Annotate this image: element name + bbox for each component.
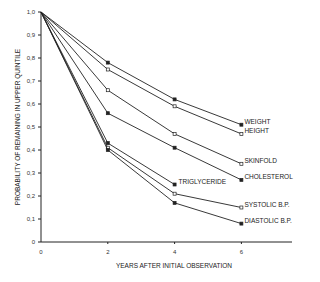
y-tick-label: 0,3 [27,170,36,176]
x-tick-label: 0 [39,249,43,255]
line-diastolic-b-p [41,12,241,224]
y-tick-label: 0,5 [27,124,36,130]
marker-skinfold [173,132,176,135]
label-triglyceride: TRIGLYCERIDE [179,178,227,185]
y-tick-label: 0,6 [27,101,36,107]
y-tick-label: 0 [32,239,36,245]
y-tick-label: 0,4 [27,147,36,153]
series-labels: WEIGHTHEIGHTSKINFOLDCHOLESTEROLTRIGLYCER… [179,118,294,224]
line-triglyceride [41,12,175,185]
y-ticks: 00,10,20,30,40,50,60,70,80,91,0 [27,9,41,245]
x-ticks: 0246 [39,242,243,255]
x-tick-label: 2 [106,249,110,255]
label-systolic-b-p: SYSTOLIC B.P. [244,201,289,208]
marker-cholesterol [106,112,109,115]
marker-cholesterol [173,146,176,149]
line-cholesterol [41,12,241,180]
marker-systolic-b-p [240,206,243,209]
label-cholesterol: CHOLESTEROL [244,173,293,180]
marker-skinfold [240,162,243,165]
marker-weight [173,98,176,101]
marker-diastolic-b-p [240,222,243,225]
marker-diastolic-b-p [173,201,176,204]
label-weight: WEIGHT [244,118,270,125]
marker-triglyceride [173,183,176,186]
y-axis-title: PROBABILITY OF REMAINING IN UPPER QUINTI… [14,48,22,205]
label-skinfold: SKINFOLD [244,157,277,164]
x-tick-label: 4 [173,249,177,255]
y-tick-label: 0,9 [27,32,36,38]
marker-height [173,105,176,108]
y-tick-label: 0,2 [27,193,36,199]
x-axis-title: YEARS AFTER INITIAL OBSERVATION [116,262,232,269]
y-tick-label: 0,7 [27,78,36,84]
line-weight [41,12,241,125]
x-tick-label: 6 [240,249,244,255]
y-tick-label: 0,1 [27,216,36,222]
marker-weight [240,123,243,126]
marker-height [240,132,243,135]
marker-height [106,68,109,71]
marker-diastolic-b-p [106,149,109,152]
series-lines [41,12,243,225]
label-diastolic-b-p: DIASTOLIC B.P. [244,217,292,224]
marker-cholesterol [240,178,243,181]
marker-skinfold [106,89,109,92]
y-tick-label: 1,0 [27,9,36,15]
marker-weight [106,61,109,64]
y-tick-label: 0,8 [27,55,36,61]
label-height: HEIGHT [244,127,269,134]
marker-systolic-b-p [173,192,176,195]
line-chart: 00,10,20,30,40,50,60,70,80,91,0 0246 YEA… [0,0,320,282]
marker-triglyceride [106,142,109,145]
